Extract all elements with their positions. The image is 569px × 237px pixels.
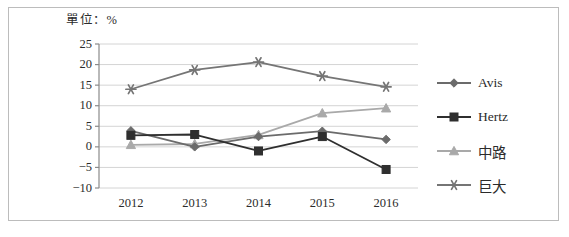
diamond-icon xyxy=(436,74,472,92)
square-marker xyxy=(255,147,263,155)
x-tick-label: 2015 xyxy=(292,196,352,210)
data-point-marker xyxy=(381,82,391,91)
data-point-marker xyxy=(317,72,327,81)
chart-screenshot: 單位：% 2520151050−5−10 2012201320142015201… xyxy=(0,0,569,237)
square-marker xyxy=(318,133,326,141)
y-tick-label: 10 xyxy=(58,99,92,111)
y-tick-label: 25 xyxy=(58,38,92,50)
x-tick-label: 2016 xyxy=(356,196,416,210)
legend-label: 巨大 xyxy=(478,175,506,196)
y-tick-label: 15 xyxy=(58,79,92,91)
data-point-marker xyxy=(450,113,458,121)
data-point-marker xyxy=(449,181,459,190)
data-point-marker xyxy=(254,58,264,67)
y-tick-label: 20 xyxy=(58,58,92,70)
data-point-marker xyxy=(382,165,390,173)
y-tick-label: 5 xyxy=(58,120,92,132)
data-point-marker xyxy=(191,131,199,139)
asterisk-icon xyxy=(436,176,472,194)
x-tick-label: 2012 xyxy=(101,196,161,210)
data-point-marker xyxy=(450,79,458,87)
y-tick-label: −5 xyxy=(58,161,92,173)
data-point-marker xyxy=(127,131,135,139)
data-point-marker xyxy=(255,147,263,155)
square-marker xyxy=(191,131,199,139)
square-marker xyxy=(382,165,390,173)
chart-legend: AvisHertz中路巨大 xyxy=(436,66,556,202)
diamond-marker xyxy=(382,135,390,143)
legend-label: 中路 xyxy=(478,141,506,162)
legend-item-Avis[interactable]: Avis xyxy=(436,66,556,100)
legend-item-Hertz[interactable]: Hertz xyxy=(436,100,556,134)
x-tick-label: 2014 xyxy=(229,196,289,210)
legend-item-中路[interactable]: 中路 xyxy=(436,134,556,168)
square-marker xyxy=(450,113,458,121)
legend-item-巨大[interactable]: 巨大 xyxy=(436,168,556,202)
data-point-marker xyxy=(126,85,136,94)
legend-label: Hertz xyxy=(478,109,508,125)
triangle-icon xyxy=(436,142,472,160)
y-tick-label: −10 xyxy=(58,182,92,194)
data-point-marker xyxy=(190,66,200,75)
y-tick-label: 0 xyxy=(58,140,92,152)
data-point-marker xyxy=(382,135,390,143)
x-tick-label: 2013 xyxy=(165,196,225,210)
data-point-marker xyxy=(318,133,326,141)
series-巨大 xyxy=(126,58,391,94)
legend-label: Avis xyxy=(478,75,503,91)
diamond-marker xyxy=(450,79,458,87)
square-icon xyxy=(436,108,472,126)
square-marker xyxy=(127,131,135,139)
